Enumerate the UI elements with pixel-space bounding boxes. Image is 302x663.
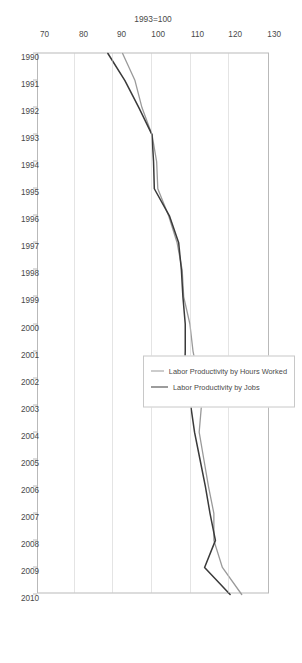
chart-legend: Labor Productivity by Hours WorkedLabor …: [143, 355, 295, 407]
plot-area: [37, 52, 269, 593]
legend-color-swatch: [151, 369, 164, 370]
category-axis-tick: [33, 404, 37, 405]
chart-page: 1993=100 1990199119921993199419951996199…: [0, 0, 302, 663]
chart-rotated-container: 1993=100 1990199119921993199419951996199…: [0, 0, 302, 663]
category-axis-tick: [33, 106, 37, 107]
category-axis-tick: [33, 295, 37, 296]
value-axis-label: 130: [257, 30, 281, 39]
value-axis-label: 90: [102, 30, 126, 39]
gridline: [228, 53, 229, 592]
value-axis-label: 110: [180, 30, 204, 39]
category-axis-tick: [33, 458, 37, 459]
legend-color-swatch: [151, 385, 168, 386]
category-axis-tick: [33, 593, 37, 594]
value-axis-title: 1993=100: [134, 13, 172, 23]
gridline: [74, 53, 75, 592]
series-layer: [36, 53, 268, 594]
gridline: [190, 53, 191, 592]
category-axis-tick: [33, 160, 37, 161]
category-axis-tick: [33, 485, 37, 486]
category-axis-tick: [33, 323, 37, 324]
category-axis-tick: [33, 79, 37, 80]
category-axis-tick: [33, 214, 37, 215]
category-axis-tick: [33, 241, 37, 242]
legend-label: Labor Productivity by Hours Worked: [169, 365, 287, 374]
category-axis-tick: [33, 431, 37, 432]
value-axis-label: 120: [218, 30, 242, 39]
category-axis-tick: [33, 52, 37, 53]
category-axis-tick: [33, 566, 37, 567]
category-axis-tick: [33, 268, 37, 269]
category-axis-tick: [33, 350, 37, 351]
gridline: [112, 53, 113, 592]
series-line: [123, 53, 242, 594]
legend-item[interactable]: Labor Productivity by Hours Worked: [151, 362, 287, 378]
value-axis-label: 70: [25, 30, 49, 39]
category-axis-tick: [33, 377, 37, 378]
category-axis-tick: [33, 133, 37, 134]
value-axis-label: 80: [64, 30, 88, 39]
value-axis-label: 100: [141, 30, 165, 39]
legend-item[interactable]: Labor Productivity by Jobs: [151, 378, 287, 394]
category-axis-tick: [33, 187, 37, 188]
category-axis-tick: [33, 539, 37, 540]
gridline: [151, 53, 152, 592]
series-line: [108, 53, 230, 594]
legend-label: Labor Productivity by Jobs: [173, 381, 260, 390]
category-axis-tick: [33, 512, 37, 513]
